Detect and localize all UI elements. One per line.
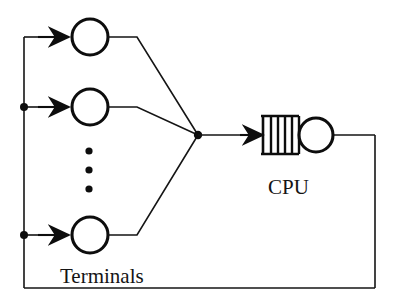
branch-dot-middle-icon	[20, 103, 28, 111]
terminal-middle-merge-line	[108, 107, 198, 135]
cpu-server-circle	[299, 118, 333, 152]
terminal-input-branches	[24, 37, 69, 235]
cpu-queue	[261, 116, 299, 154]
terminal-top-merge-line	[108, 37, 198, 135]
terminal-nodes	[72, 19, 108, 253]
branch-dot-bottom-icon	[20, 231, 28, 239]
ellipsis-dot-icon	[85, 166, 92, 173]
cpu-label: CPU	[268, 175, 309, 199]
terminal-ellipsis	[85, 147, 92, 192]
ellipsis-dot-icon	[85, 185, 92, 192]
ellipsis-dot-icon	[85, 147, 92, 154]
terminal-output-merge	[108, 37, 198, 235]
queueing-network-diagram: Terminals CPU	[0, 0, 396, 308]
terminals-label: Terminals	[60, 264, 144, 288]
terminal-bottom-merge-line	[108, 135, 198, 235]
terminal-middle-circle	[72, 89, 108, 125]
terminal-top-circle	[72, 19, 108, 55]
diagram-canvas: Terminals CPU	[0, 0, 396, 308]
terminal-bottom-circle	[72, 217, 108, 253]
feedback-loop-path	[24, 37, 375, 288]
